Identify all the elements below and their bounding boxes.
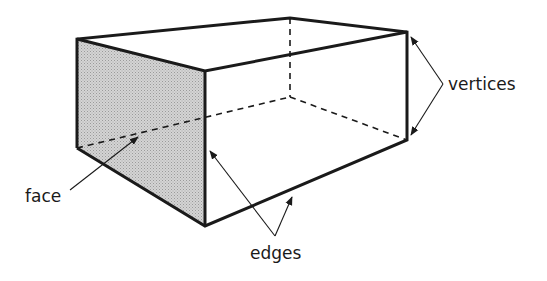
vertices-arrows — [411, 37, 443, 135]
face-label: face — [25, 186, 61, 206]
edges-label: edges — [250, 243, 302, 263]
prism-diagram: face edges vertices — [0, 0, 547, 281]
vertices-label: vertices — [448, 74, 516, 94]
